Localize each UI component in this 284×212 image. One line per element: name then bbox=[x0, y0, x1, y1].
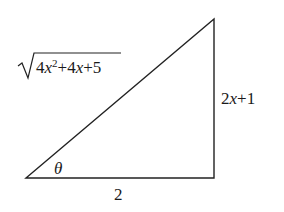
term-plus-4: +4 bbox=[58, 58, 76, 77]
coef-2: 2 bbox=[221, 89, 230, 108]
var-x-vertical: x bbox=[230, 89, 238, 108]
vertical-side-label: 2x+1 bbox=[221, 90, 255, 107]
coef-4: 4 bbox=[36, 58, 45, 77]
var-x: x bbox=[45, 58, 53, 77]
angle-theta-label: θ bbox=[54, 160, 62, 177]
term-plus-1: +1 bbox=[237, 89, 255, 108]
base-label: 2 bbox=[114, 186, 123, 203]
term-plus-5: +5 bbox=[83, 58, 101, 77]
hypotenuse-label: 4x2+4x+5 bbox=[36, 58, 101, 76]
right-triangle bbox=[26, 19, 214, 178]
